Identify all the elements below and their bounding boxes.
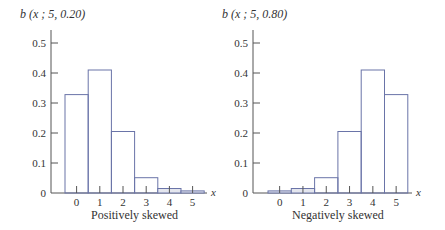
x-tick-label: 1	[300, 196, 306, 208]
x-tick-label: 3	[143, 196, 149, 208]
bar-x-4	[361, 70, 384, 193]
x-tick-label: 3	[347, 196, 353, 208]
bar-x-5	[385, 95, 408, 193]
chart-title: b (x ; 5, 0.80)	[222, 7, 287, 21]
bar-x-3	[338, 132, 361, 194]
bar-x-1	[88, 70, 111, 193]
x-axis-label: x	[415, 186, 421, 198]
chart-negatively-skewed: b (x ; 5, 0.80)00.10.20.30.40.5012345xNe…	[222, 7, 421, 222]
binomial-figure: b (x ; 5, 0.20)00.10.20.30.40.5012345xPo…	[0, 0, 445, 230]
y-tick-label: 0.1	[234, 157, 248, 169]
x-tick-label: 0	[277, 196, 283, 208]
y-tick-label: 0.5	[234, 37, 248, 49]
y-tick-label: 0.3	[234, 97, 248, 109]
x-tick-label: 5	[190, 196, 196, 208]
x-tick-label: 4	[167, 196, 173, 208]
x-tick-label: 2	[120, 196, 126, 208]
y-tick-label: 0	[243, 187, 249, 199]
figure-canvas: b (x ; 5, 0.20)00.10.20.30.40.5012345xPo…	[0, 0, 445, 230]
bar-x-0	[65, 95, 88, 193]
y-tick-label: 0.1	[32, 157, 46, 169]
bar-x-2	[111, 132, 134, 194]
x-tick-label: 0	[74, 196, 80, 208]
y-tick-label: 0.3	[32, 97, 46, 109]
chart-subtitle: Positively skewed	[91, 208, 178, 222]
y-tick-label: 0.5	[32, 37, 46, 49]
chart-subtitle: Negatively skewed	[292, 208, 384, 222]
y-tick-label: 0	[41, 187, 47, 199]
x-tick-label: 4	[370, 196, 376, 208]
y-tick-label: 0.2	[234, 127, 248, 139]
x-axis-label: x	[210, 186, 216, 198]
x-tick-label: 5	[393, 196, 399, 208]
chart-positively-skewed: b (x ; 5, 0.20)00.10.20.30.40.5012345xPo…	[20, 7, 216, 222]
chart-title: b (x ; 5, 0.20)	[20, 7, 85, 21]
y-tick-label: 0.4	[234, 67, 248, 79]
x-tick-label: 1	[97, 196, 103, 208]
x-tick-label: 2	[324, 196, 330, 208]
y-tick-label: 0.4	[32, 67, 46, 79]
y-tick-label: 0.2	[32, 127, 46, 139]
